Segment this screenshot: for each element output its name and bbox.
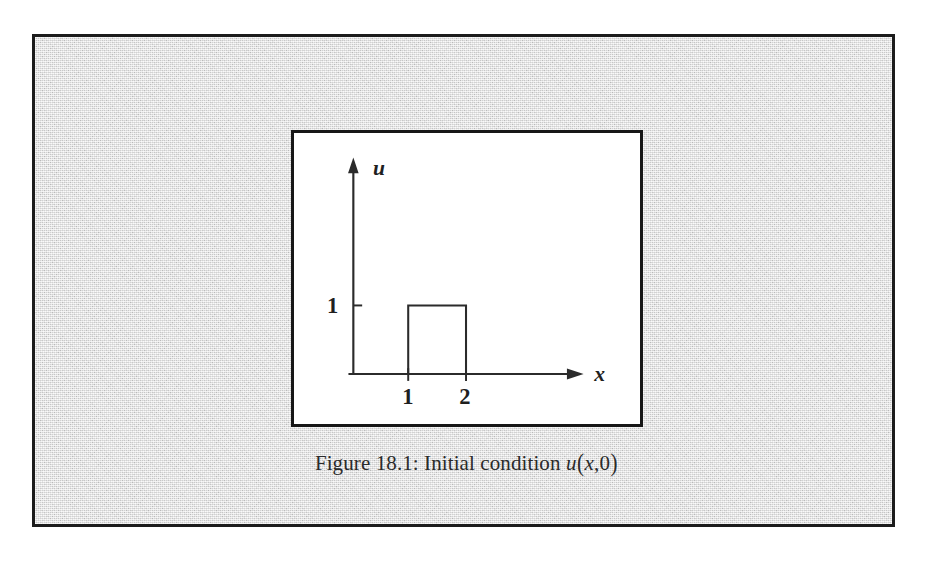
x-tick-label-1: 1 xyxy=(402,384,413,409)
figure-caption-math-arg-t: 0 xyxy=(599,451,610,475)
y-tick-label-1: 1 xyxy=(327,293,338,318)
scanned-page-sheet: u x 1 1 2 Figure 18.1: Initial condition… xyxy=(32,34,895,527)
x-axis-label: x xyxy=(593,362,605,386)
figure-plot-frame: u x 1 1 2 xyxy=(291,130,643,427)
square-pulse-curve xyxy=(408,305,466,374)
initial-condition-plot: u x 1 1 2 xyxy=(294,133,640,424)
figure-caption-prefix: Figure 18.1: Initial condition xyxy=(315,451,566,475)
y-axis-arrowhead-icon xyxy=(348,157,359,173)
x-axis-arrowhead-icon xyxy=(567,369,584,380)
figure-caption-open-paren: ( xyxy=(577,445,585,480)
figure-caption: Figure 18.1: Initial condition u(x,0) xyxy=(35,448,898,478)
x-tick-label-2: 2 xyxy=(459,384,470,409)
figure-caption-math-function: u xyxy=(566,451,577,475)
figure-caption-close-paren: ) xyxy=(610,445,618,480)
figure-caption-math-arg-x: x xyxy=(585,451,594,475)
y-axis-label: u xyxy=(373,156,385,180)
